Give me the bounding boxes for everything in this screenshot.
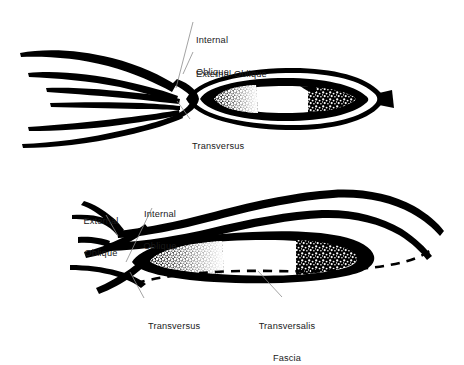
label-line-1: Transversus	[148, 321, 200, 332]
label-line-2: Oblique	[134, 241, 186, 252]
strand-4	[50, 102, 180, 110]
label-transversus-lower: Transversus	[148, 300, 200, 353]
label-external-oblique-lower: External Oblique	[72, 195, 130, 280]
label-transversus-upper: Transversus	[192, 120, 244, 173]
upper-right-stub	[379, 90, 394, 108]
label-line-1: Transversus	[192, 141, 244, 152]
upper-muscle-strands	[20, 50, 183, 148]
label-line-2: Fascia	[250, 353, 324, 364]
label-line-1: Internal	[196, 35, 229, 46]
label-line-1: Transversalis	[250, 321, 324, 332]
label-line-2: Oblique	[72, 248, 130, 259]
label-line-1: External	[72, 216, 130, 227]
label-external-oblique-upper: External Oblique	[196, 48, 267, 101]
strand-5	[28, 110, 180, 131]
label-internal-oblique-lower: Internal Oblique	[134, 188, 186, 273]
label-transversalis-fascia: Transversalis Fascia	[250, 300, 324, 365]
label-line-1: External Oblique	[196, 69, 267, 80]
label-line-1: Internal	[134, 209, 186, 220]
leader-internal-oblique	[176, 22, 193, 88]
strand-1	[20, 50, 176, 92]
